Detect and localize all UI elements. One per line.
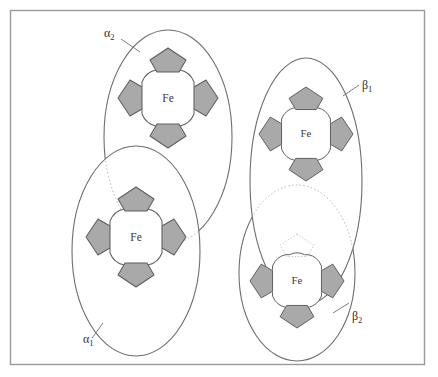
hemoglobin-structure-figure: Fe α2 Fe β1 [0, 0, 438, 377]
alpha2-label-sub: 2 [110, 32, 114, 42]
alpha1-label-sub: 1 [89, 338, 93, 348]
alpha2-fe-label: Fe [162, 92, 174, 104]
beta2-label-sub: 2 [358, 315, 362, 325]
diagram-canvas: Fe α2 Fe β1 [0, 0, 438, 377]
beta1-label-sub: 1 [368, 84, 372, 94]
beta2-fe-label: Fe [292, 274, 303, 286]
beta1-fe-label: Fe [301, 127, 312, 139]
alpha1-fe-label: Fe [130, 231, 142, 243]
